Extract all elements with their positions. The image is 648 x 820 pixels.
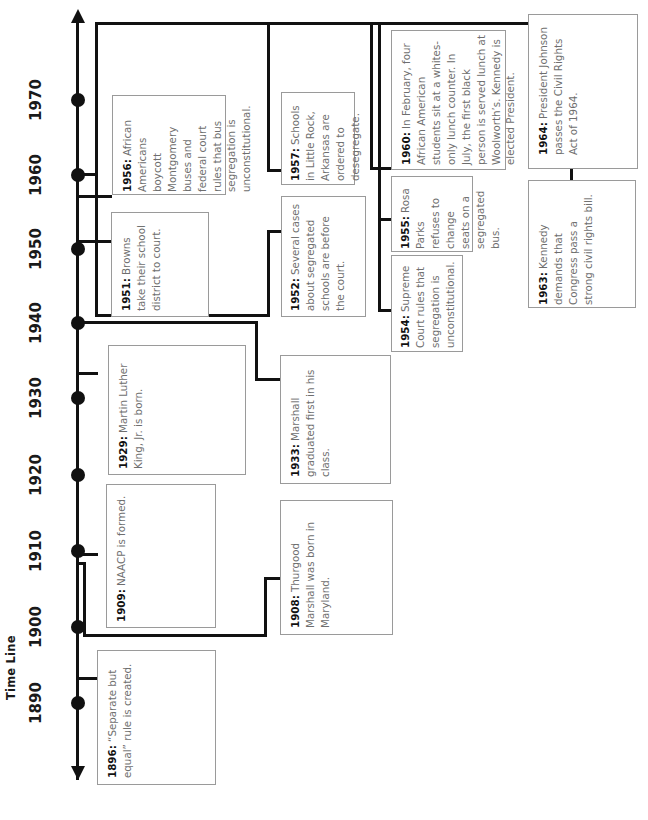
timeline-diagram: Time Line 1970 1960 1950 1940 1930 1920 …	[0, 0, 648, 820]
page-title: Time Line	[4, 580, 18, 700]
connector-1908-h2	[83, 634, 267, 637]
connector-1957-h	[267, 169, 282, 172]
event-box-1956[interactable]: 1956: African Americans boycott Montgome…	[112, 95, 226, 195]
event-body-1955: Rosa Parks refuses to change seats on a …	[399, 188, 501, 249]
event-box-1952[interactable]: 1952: Several cases about segregated sch…	[281, 196, 366, 317]
event-box-1964[interactable]: 1964: President Johnson passes the Civil…	[528, 14, 638, 169]
connector-1896-h	[76, 677, 98, 680]
event-year-1952: 1952:	[289, 278, 301, 311]
connector-1909-h	[76, 553, 98, 556]
axis-label-1910: 1910	[27, 521, 45, 581]
event-box-1909[interactable]: 1909: NAACP is formed.	[106, 484, 216, 628]
axis-label-1960: 1960	[27, 145, 45, 205]
event-box-1954[interactable]: 1954: Supreme Court rules that segregati…	[391, 255, 463, 352]
connector-1952-v	[267, 230, 270, 317]
connector-1908-v1	[76, 562, 79, 638]
axis-label-1890: 1890	[27, 673, 45, 733]
event-text-1963: 1963: Kennedy demands that Congress pass…	[536, 185, 596, 305]
connector-1960-v	[370, 22, 373, 170]
event-box-1908[interactable]: 1908: Thurgood Marshall was born in Mary…	[280, 500, 393, 635]
event-text-1954: 1954: Supreme Court rules that segregati…	[398, 260, 458, 348]
event-text-1896: 1896: “Separate but equal” rule is creat…	[105, 656, 135, 778]
event-year-1933: 1933:	[289, 444, 301, 477]
event-text-1929: 1929: Martin Luther King, Jr. is born.	[116, 351, 146, 469]
event-text-1952: 1952: Several cases about segregated sch…	[288, 201, 348, 311]
connector-1956-h	[76, 195, 112, 198]
event-text-1908: 1908: Thurgood Marshall was born in Mary…	[288, 506, 333, 628]
connector-1957-v	[267, 22, 270, 172]
event-text-1957: 1957: Schools in Little Rock, Arkansas a…	[288, 97, 363, 181]
event-body-1956: African Americans boycott Montgomery bus…	[121, 105, 252, 192]
event-year-1929: 1929:	[117, 436, 129, 469]
axis-label-1930: 1930	[27, 368, 45, 428]
axis-label-1920: 1920	[27, 445, 45, 505]
event-box-1896[interactable]: 1896: “Separate but equal” rule is creat…	[97, 650, 216, 785]
event-box-1951[interactable]: 1951: Browns take their school district …	[111, 212, 209, 317]
event-box-1933[interactable]: 1933: Marshall graduated first in his cl…	[280, 355, 391, 484]
event-box-1957[interactable]: 1957: Schools in Little Rock, Arkansas a…	[281, 92, 355, 185]
connector-1955-h	[378, 218, 392, 221]
axis-label-1940: 1940	[27, 293, 45, 353]
connector-1896-v	[76, 677, 79, 703]
connector-1908-v3	[264, 577, 267, 637]
event-box-1929[interactable]: 1929: Martin Luther King, Jr. is born.	[108, 345, 246, 475]
tick-dot-1920	[71, 468, 85, 482]
connector-1933-h1	[76, 321, 258, 324]
connector-1933-h2	[255, 378, 282, 381]
axis-arrow-up-icon	[71, 9, 85, 23]
event-text-1964: 1964: President Johnson passes the Civil…	[536, 19, 581, 155]
event-box-1963[interactable]: 1963: Kennedy demands that Congress pass…	[528, 180, 636, 308]
event-box-1955[interactable]: 1955: Rosa Parks refuses to change seats…	[391, 176, 473, 252]
tick-dot-1970	[71, 93, 85, 107]
event-text-1956: 1956: African Americans boycott Montgome…	[120, 100, 254, 192]
event-year-1951: 1951:	[120, 278, 132, 311]
event-text-1960: 1960: In February, four African American…	[399, 35, 518, 165]
connector-1933-v1	[76, 321, 79, 383]
axis-label-1950: 1950	[27, 219, 45, 279]
event-year-1908: 1908:	[289, 595, 301, 628]
event-year-1960: 1960:	[400, 132, 412, 165]
connector-1951-h	[76, 240, 112, 243]
event-year-1956: 1956:	[121, 159, 133, 192]
connector-1952-trunk-v	[95, 22, 98, 317]
connector-1960-h	[370, 167, 392, 170]
connector-1954-h	[378, 309, 392, 312]
connector-1929-h	[76, 372, 98, 375]
event-text-1933: 1933: Marshall graduated first in his cl…	[288, 361, 333, 477]
event-text-1951: 1951: Browns take their school district …	[119, 217, 164, 311]
event-body-1960: In February, four African American stude…	[400, 35, 516, 165]
event-year-1957: 1957:	[289, 148, 301, 181]
event-year-1954: 1954:	[399, 315, 411, 348]
event-text-1909: 1909: NAACP is formed.	[114, 490, 129, 622]
event-box-1960[interactable]: 1960: In February, four African American…	[391, 30, 506, 170]
axis-label-1900: 1900	[27, 597, 45, 657]
event-year-1909: 1909:	[115, 589, 127, 622]
axis-arrow-down-icon	[71, 766, 85, 780]
event-year-1896: 1896:	[106, 745, 118, 778]
tick-dot-1950	[71, 242, 85, 256]
connector-1952-h	[267, 230, 282, 233]
event-body-1909: NAACP is formed.	[115, 496, 127, 590]
connector-1933-v2	[255, 321, 258, 381]
event-year-1963: 1963:	[537, 272, 549, 305]
connector-trunk-h-across	[95, 22, 573, 25]
event-text-1955: 1955: Rosa Parks refuses to change seats…	[398, 181, 502, 249]
event-year-1964: 1964:	[537, 122, 549, 155]
connector-1908-v2	[83, 565, 86, 637]
event-year-1955: 1955:	[399, 216, 411, 249]
axis-label-1970: 1970	[27, 70, 45, 130]
